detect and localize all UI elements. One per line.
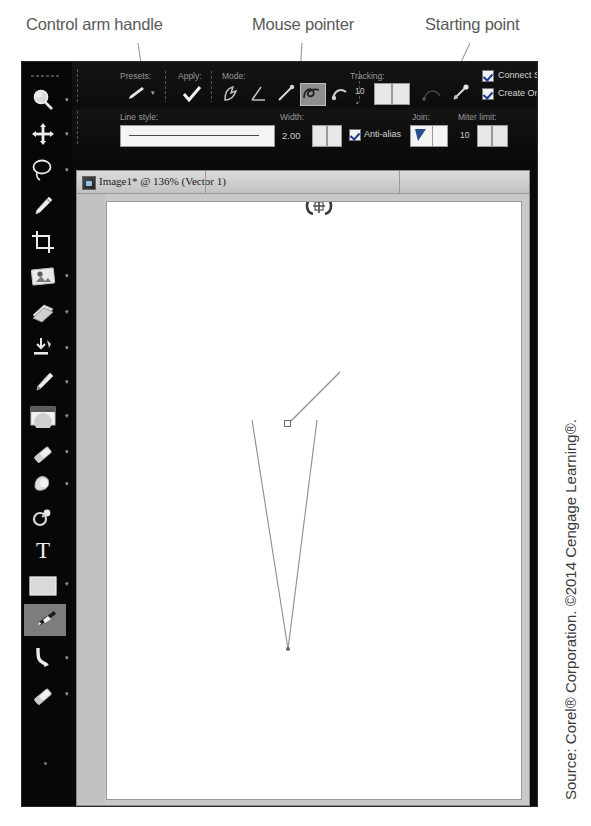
tool-shape-rectangle[interactable]	[26, 570, 60, 602]
miter-spinner-b[interactable]	[492, 125, 508, 147]
tracking-node-button[interactable]	[448, 83, 472, 104]
mode-edit-icon	[328, 84, 352, 104]
options-grip-row1[interactable]	[76, 68, 79, 102]
callout-control-arm-handle: Control arm handle	[26, 15, 163, 34]
tool-shape-dropdown-arrow[interactable]: ▾	[63, 580, 70, 587]
presets-label: Presets:	[120, 71, 151, 81]
tool-pan-dropdown-arrow[interactable]: ▾	[63, 130, 70, 137]
tool-lighten-darken[interactable]	[26, 400, 60, 432]
callout-mouse-pointer: Mouse pointer	[252, 15, 354, 34]
tool-dropper[interactable]	[26, 190, 60, 222]
node-edit-icon	[448, 83, 472, 104]
vector-path-preview	[107, 202, 521, 799]
mode-knife-icon	[220, 84, 244, 104]
miter-limit-value[interactable]: 10	[460, 130, 469, 140]
tool-options-bar: Presets: ▾ Apply: Mode:	[72, 62, 537, 156]
mode-label: Mode:	[222, 71, 246, 81]
pen-cursor-icon	[302, 201, 336, 222]
line-style-dropdown[interactable]	[120, 125, 275, 147]
tool-warp-dropdown-arrow[interactable]: ▾	[63, 654, 70, 661]
paint-brush-icon	[31, 370, 55, 394]
tracking-curve-button[interactable]	[420, 84, 444, 104]
document-title: Image1* @ 136% (Vector 1)	[99, 175, 226, 187]
join-style-alt-button[interactable]	[432, 125, 448, 147]
connect-segments-checkbox[interactable]	[482, 70, 494, 82]
tool-text[interactable]: T	[26, 534, 60, 566]
presets-button[interactable]	[124, 84, 150, 104]
palette-drag-grip[interactable]	[30, 74, 60, 78]
join-style-button[interactable]	[410, 125, 433, 147]
tool-eraser-alt[interactable]	[26, 678, 60, 710]
tool-brush-dropdown-arrow[interactable]: ▾	[63, 378, 70, 385]
tool-zoom-dropdown-arrow[interactable]: ▾	[63, 96, 70, 103]
tool-eraser[interactable]	[26, 436, 60, 468]
tool-smudge-dropdown-arrow[interactable]: ▾	[63, 480, 70, 487]
tool-fill-flood[interactable]	[26, 332, 60, 364]
tool-clone-dropdown-arrow[interactable]: ▾	[63, 308, 70, 315]
apply-button[interactable]	[180, 84, 204, 104]
miter-limit-label: Miter limit:	[458, 112, 497, 122]
tool-lasso-dropdown-arrow[interactable]: ▾	[63, 166, 70, 173]
tool-paint-brush[interactable]	[26, 366, 60, 398]
tool-crop[interactable]	[26, 226, 60, 258]
pan-move-icon	[31, 122, 55, 146]
mode-freehand-icon	[301, 84, 323, 103]
width-value[interactable]: 2.00	[282, 130, 301, 141]
mode-edit-button[interactable]	[328, 84, 352, 104]
tracking-unit: •	[356, 99, 358, 106]
lighten-darken-icon	[29, 404, 57, 428]
tool-lighten-dropdown-arrow[interactable]: ▾	[63, 412, 70, 419]
tool-fill-dropdown-arrow[interactable]: ▾	[63, 344, 70, 351]
width-spinner-b[interactable]	[327, 125, 342, 147]
tracking-spinner-b[interactable]	[392, 83, 410, 105]
tracking-value[interactable]: 10	[355, 86, 364, 96]
tool-lasso-select[interactable]	[26, 154, 60, 186]
tool-zoom-magnifier[interactable]	[26, 84, 60, 116]
tracking-spinner-a[interactable]	[374, 83, 392, 105]
pen-tool-icon	[32, 609, 58, 631]
create-on-vector-checkbox[interactable]	[482, 88, 494, 100]
create-on-vector-label: Create On Vect	[498, 88, 537, 98]
options-grip-row2[interactable]	[76, 110, 79, 144]
tool-eraser-dropdown-arrow[interactable]: ▾	[63, 448, 70, 455]
mode-knife-button[interactable]	[220, 84, 244, 104]
clone-brush-icon	[30, 301, 56, 323]
line-style-label: Line style:	[120, 112, 158, 122]
palette-bottom-dot	[44, 762, 47, 765]
join-miter-icon	[411, 126, 430, 144]
callout-starting-point: Starting point	[425, 15, 519, 34]
tool-clone-stamp[interactable]	[26, 502, 60, 534]
tool-warp-brush[interactable]	[26, 642, 60, 674]
canvas-left-gutter	[77, 194, 105, 804]
titlebar-separator-1	[205, 171, 206, 193]
tool-straighten-image[interactable]	[26, 260, 60, 292]
tool-straighten-dropdown-arrow[interactable]: ▾	[63, 272, 70, 279]
width-spinner-a[interactable]	[312, 125, 327, 147]
tool-smudge-retouch[interactable]	[26, 468, 60, 500]
mode-freehand-button[interactable]	[300, 83, 326, 106]
crop-icon	[31, 230, 55, 254]
document-titlebar[interactable]: Image1* @ 136% (Vector 1)	[77, 171, 529, 194]
tool-pan-move[interactable]	[26, 118, 60, 150]
dropper-icon	[31, 194, 55, 218]
tool-palette[interactable]: ▾ ▾ ▾	[22, 62, 72, 806]
miter-spinner-a[interactable]	[477, 125, 492, 147]
mode-angle-button[interactable]	[247, 84, 271, 104]
smudge-retouch-icon	[30, 472, 56, 496]
zoom-magnifier-icon	[30, 87, 56, 113]
tool-eraser-alt-dropdown-arrow[interactable]: ▾	[63, 690, 70, 697]
presets-dropdown-arrow[interactable]: ▾	[151, 89, 155, 97]
image-canvas[interactable]	[106, 201, 522, 800]
lasso-select-icon	[30, 158, 56, 182]
line-style-preview	[129, 135, 259, 136]
tool-clone-brush[interactable]	[26, 296, 60, 328]
corel-paintshop-window: ▾ ▾ ▾	[22, 62, 537, 806]
apply-label: Apply:	[178, 71, 202, 81]
curve-node-icon	[420, 84, 444, 104]
tool-pen[interactable]	[24, 604, 66, 636]
eraser-icon	[31, 440, 55, 464]
mode-line-button[interactable]	[274, 84, 298, 104]
clone-stamp-icon	[31, 506, 55, 530]
anti-alias-checkbox[interactable]	[349, 129, 361, 141]
connect-segments-label: Connect Segmen	[498, 70, 537, 80]
